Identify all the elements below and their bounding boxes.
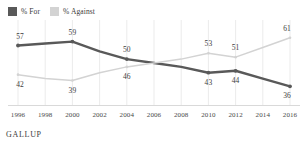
data-point-label: 61 <box>283 25 291 33</box>
legend-item-label: % For <box>21 7 40 16</box>
plot-svg <box>0 20 306 105</box>
data-point-marker <box>207 71 211 75</box>
x-tick-label: 2000 <box>65 111 79 120</box>
data-point-label: 43 <box>205 79 213 87</box>
legend-item-label: % Against <box>63 7 95 16</box>
x-tick-label: 2006 <box>147 111 161 120</box>
square-swatch-icon <box>8 7 17 16</box>
data-point-label: 57 <box>16 33 24 41</box>
data-point-marker <box>71 40 75 44</box>
x-axis-line <box>8 105 300 106</box>
data-point-label: 59 <box>69 29 77 37</box>
data-point-marker <box>126 66 129 69</box>
data-point-label: 46 <box>123 73 131 81</box>
x-tick-label: 2012 <box>228 111 242 120</box>
data-point-marker <box>234 56 237 59</box>
data-point-marker <box>17 73 20 76</box>
data-point-label: 53 <box>205 40 213 48</box>
x-tick-label: 1998 <box>38 111 52 120</box>
data-point-marker <box>71 79 74 82</box>
x-tick-label: 1996 <box>11 111 25 120</box>
data-point-label: 51 <box>232 44 240 52</box>
x-tick-label: 2014 <box>256 111 270 120</box>
gallup-line-chart: % For % Against 575950434436423946535161… <box>0 0 306 151</box>
data-point-label: 36 <box>283 92 291 100</box>
x-tick-label: 2004 <box>120 111 134 120</box>
data-point-label: 50 <box>123 46 131 54</box>
data-point-label: 44 <box>232 77 240 85</box>
data-point-marker <box>288 84 292 88</box>
square-swatch-icon <box>50 7 59 16</box>
legend-item-against: % Against <box>50 7 95 16</box>
x-tick-label: 2016 <box>283 111 297 120</box>
x-tick-label: 2010 <box>201 111 215 120</box>
x-tick-label: 2002 <box>92 111 106 120</box>
x-axis: 1996199820002002200420062008201020122014… <box>0 105 306 127</box>
source-attribution: GALLUP <box>6 130 42 140</box>
data-point-marker <box>207 52 210 55</box>
x-tick-label: 2008 <box>174 111 188 120</box>
data-point-label: 42 <box>16 81 24 89</box>
chart-legend: % For % Against <box>8 4 95 18</box>
data-point-marker <box>16 44 20 48</box>
legend-item-for: % For <box>8 7 40 16</box>
data-point-marker <box>289 36 292 39</box>
data-point-label: 39 <box>69 87 77 95</box>
data-point-marker <box>234 69 238 73</box>
plot-area: 575950434436423946535161 <box>0 20 306 105</box>
data-point-marker <box>125 57 129 61</box>
